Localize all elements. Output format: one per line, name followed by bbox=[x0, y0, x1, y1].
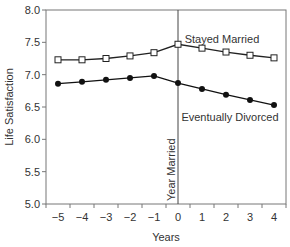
data-point bbox=[79, 57, 85, 63]
y-tick-label: 5.0 bbox=[25, 198, 40, 210]
series-eventually-divorced bbox=[55, 73, 277, 108]
data-point bbox=[247, 52, 253, 58]
data-point bbox=[127, 75, 133, 81]
y-tick-label: 7.5 bbox=[25, 36, 40, 48]
data-point bbox=[127, 53, 133, 59]
data-point bbox=[55, 57, 61, 63]
y-tick-label: 8.0 bbox=[25, 4, 40, 16]
data-point bbox=[199, 45, 205, 51]
data-point bbox=[271, 55, 277, 61]
y-tick-label: 6.0 bbox=[25, 133, 40, 145]
series-layer bbox=[55, 41, 277, 108]
data-point bbox=[223, 49, 229, 55]
data-point bbox=[175, 41, 181, 47]
data-point bbox=[199, 86, 205, 92]
data-point bbox=[79, 79, 85, 85]
x-axis: −5−4−3−2−101234 bbox=[46, 204, 286, 223]
y-tick-label: 7.0 bbox=[25, 69, 40, 81]
y-tick-label: 6.5 bbox=[25, 101, 40, 113]
data-point bbox=[223, 92, 229, 98]
life-satisfaction-chart: 5.05.56.06.57.07.58.0 −5−4−3−2−101234 Ye… bbox=[0, 0, 290, 247]
x-tick-label: −5 bbox=[52, 211, 65, 223]
series-label-eventually-divorced: Eventually Divorced bbox=[181, 111, 278, 123]
data-point bbox=[151, 50, 157, 56]
y-axis: 5.05.56.06.57.07.58.0 bbox=[25, 4, 46, 210]
x-tick-label: 3 bbox=[247, 211, 253, 223]
data-point bbox=[55, 81, 61, 87]
x-tick-label: −1 bbox=[148, 211, 161, 223]
y-tick-label: 5.5 bbox=[25, 166, 40, 178]
x-tick-label: 1 bbox=[199, 211, 205, 223]
data-point bbox=[103, 77, 109, 83]
x-tick-label: 2 bbox=[223, 211, 229, 223]
data-point bbox=[175, 80, 181, 86]
data-point bbox=[271, 102, 277, 108]
x-tick-label: −2 bbox=[124, 211, 137, 223]
series-label-stayed-married: Stayed Married bbox=[185, 33, 260, 45]
x-tick-label: 0 bbox=[175, 211, 181, 223]
series-line bbox=[58, 44, 274, 60]
data-point bbox=[247, 97, 253, 103]
x-tick-label: 4 bbox=[271, 211, 277, 223]
data-point bbox=[151, 73, 157, 79]
y-axis-title: Life Satisfaction bbox=[3, 68, 15, 146]
x-axis-title: Years bbox=[152, 231, 180, 243]
data-point bbox=[103, 56, 109, 62]
series-line bbox=[58, 76, 274, 105]
x-tick-label: −4 bbox=[76, 211, 89, 223]
x-tick-label: −3 bbox=[100, 211, 113, 223]
year-married-annotation: Year Married bbox=[165, 138, 177, 201]
